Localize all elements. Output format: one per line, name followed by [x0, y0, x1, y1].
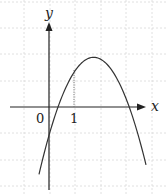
parabola-curve: [39, 57, 146, 174]
tick-label-one: 1: [70, 112, 78, 125]
background-grid: [0, 0, 168, 194]
x-axis-arrowhead-icon: [137, 104, 146, 111]
y-axis-arrowhead-icon: [46, 22, 53, 31]
y-axis-label: y: [45, 6, 53, 20]
origin-label: 0: [36, 112, 44, 125]
function-graph: [0, 0, 168, 194]
x-axis-label: x: [151, 99, 159, 113]
